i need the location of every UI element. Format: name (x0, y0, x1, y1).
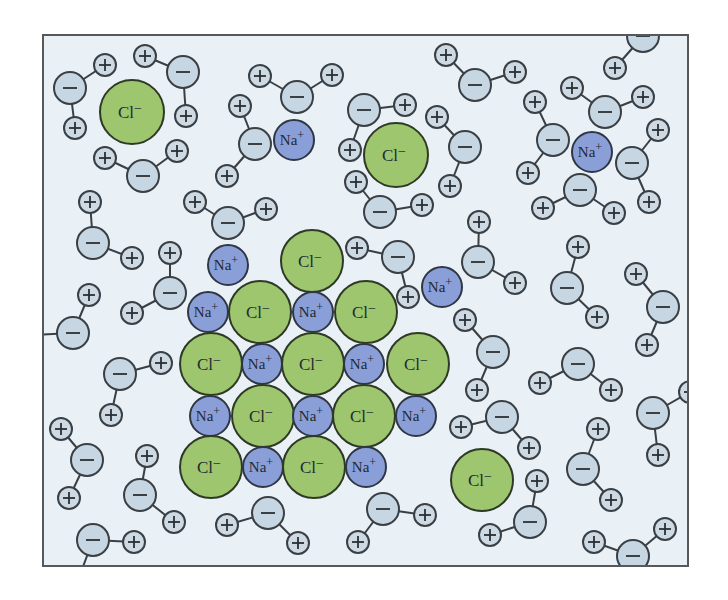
hydrogen-atom (150, 352, 172, 374)
hydrogen-atom (123, 531, 145, 553)
oxygen-atom (364, 196, 396, 228)
oxygen-atom (647, 291, 679, 323)
oxygen-atom (551, 272, 583, 304)
hydrogen-atom (567, 236, 589, 258)
hydrogen-atom (439, 175, 461, 197)
oxygen-atom (514, 506, 546, 538)
hydrogen-atom (468, 211, 490, 233)
hydrogen-atom (346, 237, 368, 259)
chloride-ion: Cl− (283, 436, 345, 498)
nacl-dissolution-diagram: Cl−Na+Cl−Na+Na+Cl−Na+Cl−Na+Cl−Na+Cl−Cl−N… (0, 0, 728, 600)
hydrogen-atom (532, 197, 554, 219)
hydrogen-atom (524, 91, 546, 113)
oxygen-atom (616, 147, 648, 179)
hydrogen-atom (600, 489, 622, 511)
hydrogen-atom (79, 191, 101, 213)
oxygen-atom (252, 497, 284, 529)
hydrogen-atom (100, 404, 122, 426)
oxygen-atom (281, 81, 313, 113)
hydrogen-atom (518, 437, 540, 459)
oxygen-atom (77, 227, 109, 259)
oxygen-atom (449, 131, 481, 163)
oxygen-atom (167, 56, 199, 88)
hydrogen-atom (632, 86, 654, 108)
hydrogen-atom (255, 198, 277, 220)
sodium-ion: Na+ (422, 267, 462, 307)
oxygen-atom (127, 160, 159, 192)
sodium-ion: Na+ (344, 344, 384, 384)
sodium-ion: Na+ (188, 292, 228, 332)
oxygen-atom (462, 246, 494, 278)
chloride-ion: Cl− (180, 333, 242, 395)
hydrogen-atom (345, 171, 367, 193)
hydrogen-atom (466, 379, 488, 401)
hydrogen-atom (249, 65, 271, 87)
chloride-ion: Cl− (335, 281, 397, 343)
hydrogen-atom (600, 379, 622, 401)
hydrogen-atom (647, 444, 669, 466)
chloride-ion: Cl− (364, 123, 428, 187)
oxygen-atom (77, 524, 109, 556)
hydrogen-atom (58, 487, 80, 509)
hydrogen-atom (526, 470, 548, 492)
hydrogen-atom (529, 372, 551, 394)
sodium-ion: Na+ (208, 245, 248, 285)
hydrogen-atom (121, 302, 143, 324)
hydrogen-atom (287, 532, 309, 554)
hydrogen-atom (625, 263, 647, 285)
oxygen-atom (104, 358, 136, 390)
hydrogen-atom (603, 202, 625, 224)
hydrogen-atom (414, 504, 436, 526)
sodium-ion: Na+ (274, 120, 314, 160)
oxygen-atom (348, 94, 380, 126)
hydrogen-atom (64, 117, 86, 139)
hydrogen-atom (504, 272, 526, 294)
hydrogen-atom (411, 194, 433, 216)
hydrogen-atom (454, 309, 476, 331)
oxygen-atom (54, 72, 86, 104)
chloride-ion: Cl− (387, 333, 449, 395)
hydrogen-atom (426, 106, 448, 128)
sodium-ion: Na+ (293, 292, 333, 332)
hydrogen-atom (136, 445, 158, 467)
oxygen-atom (212, 207, 244, 239)
sodium-ion: Na+ (346, 447, 386, 487)
hydrogen-atom (159, 242, 181, 264)
sodium-ion: Na+ (293, 396, 333, 436)
oxygen-atom (562, 348, 594, 380)
hydrogen-atom (397, 286, 419, 308)
hydrogen-atom (339, 139, 361, 161)
hydrogen-atom (604, 57, 626, 79)
oxygen-atom (154, 277, 186, 309)
hydrogen-atom (78, 284, 100, 306)
chloride-ion: Cl− (451, 449, 513, 511)
hydrogen-atom (175, 105, 197, 127)
hydrogen-atom (121, 247, 143, 269)
hydrogen-atom (216, 514, 238, 536)
hydrogen-atom (586, 306, 608, 328)
oxygen-atom (367, 493, 399, 525)
chloride-ion: Cl− (100, 80, 164, 144)
oxygen-atom (567, 453, 599, 485)
hydrogen-atom (504, 61, 526, 83)
hydrogen-atom (166, 140, 188, 162)
hydrogen-atom (347, 531, 369, 553)
hydrogen-atom (638, 191, 660, 213)
hydrogen-atom (654, 518, 676, 540)
hydrogen-atom (679, 381, 701, 403)
hydrogen-atom (583, 531, 605, 553)
chloride-ion: Cl− (229, 281, 291, 343)
oxygen-atom (537, 124, 569, 156)
oxygen-atom (382, 241, 414, 273)
hydrogen-atom (636, 334, 658, 356)
oxygen-atom (637, 397, 669, 429)
oxygen-atom (124, 479, 156, 511)
oxygen-atom (589, 96, 621, 128)
chloride-ion: Cl− (333, 385, 395, 447)
hydrogen-atom (94, 54, 116, 76)
hydrogen-atom (94, 147, 116, 169)
hydrogen-atom (479, 524, 501, 546)
oxygen-atom (564, 174, 596, 206)
hydrogen-atom (394, 94, 416, 116)
hydrogen-atom (50, 418, 72, 440)
